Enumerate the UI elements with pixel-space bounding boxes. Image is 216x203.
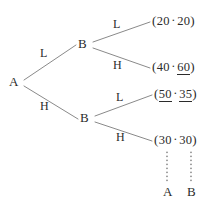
payoff-1-player-a: 20 (157, 15, 170, 28)
payoff-close-paren: ) (192, 132, 197, 147)
payoff-close-paren: ) (190, 13, 195, 28)
edge-root-to-lower-b (24, 86, 78, 119)
payoff-3-player-a: 50 (159, 88, 172, 102)
branch-label-upper-h: H (113, 59, 122, 71)
payoff-pair-3: (50·35) (154, 87, 197, 102)
node-root-a: A (9, 75, 18, 88)
payoff-3-player-b: 35 (179, 88, 192, 102)
branch-label-root-h: H (40, 100, 49, 112)
payoff-close-paren: ) (192, 86, 197, 101)
payoff-close-paren: ) (190, 59, 195, 74)
node-lower-b: B (80, 111, 89, 124)
payoff-separator: · (170, 60, 177, 73)
game-tree-figure: A B B L H L H L H (20·20) (40·60) (50·35… (0, 0, 216, 203)
edge-root-to-upper-b (24, 45, 76, 80)
payoff-2-player-b: 60 (177, 61, 190, 75)
payoff-separator: · (172, 133, 179, 146)
branch-label-upper-l: L (113, 18, 120, 30)
branch-label-root-l: L (40, 47, 47, 59)
edge-lower-b-to-payoff-3 (95, 95, 152, 116)
edge-upper-b-to-payoff-1 (93, 22, 150, 42)
payoff-separator: · (170, 14, 177, 27)
payoff-2-player-a: 40 (157, 61, 170, 74)
node-upper-b: B (78, 37, 87, 50)
player-column-label-b: B (187, 185, 196, 198)
payoff-4-player-a: 30 (159, 134, 172, 147)
branch-label-lower-h: H (116, 131, 125, 143)
player-column-label-a: A (163, 185, 172, 198)
payoff-1-player-b: 20 (177, 15, 190, 28)
tree-edges (0, 0, 216, 203)
payoff-pair-1: (20·20) (152, 14, 195, 28)
payoff-separator: · (172, 87, 179, 100)
payoff-pair-4: (30·30) (154, 133, 197, 147)
payoff-4-player-b: 30 (179, 134, 192, 147)
branch-label-lower-l: L (116, 91, 123, 103)
payoff-pair-2: (40·60) (152, 60, 195, 75)
